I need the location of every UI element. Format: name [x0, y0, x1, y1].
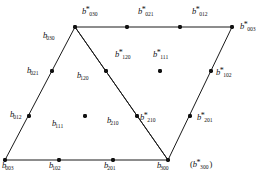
figure-canvas [0, 0, 271, 177]
label-b120-subscript: 120 [80, 75, 88, 81]
label-b300-star-close-paren: ) [209, 159, 212, 169]
label-b300: b300 [157, 161, 170, 170]
vertex-b003-star [230, 25, 234, 29]
label-b201-star-subscript: 201 [204, 117, 212, 123]
label-b111-star-subscript: 111 [160, 54, 168, 60]
label-b210: b210 [107, 116, 120, 125]
interior-b111-star [158, 69, 162, 73]
label-b201-star: b*201 [197, 113, 214, 122]
label-b021-star-subscript: 021 [145, 11, 153, 17]
label-b111: b111 [52, 119, 64, 128]
triangle-edges [5, 27, 232, 160]
label-b102: b102 [49, 161, 62, 170]
label-b102-star: b*102 [216, 68, 233, 77]
control-points [3, 25, 234, 162]
edge-diag-1 [104, 69, 108, 73]
label-b201-subscript: 201 [107, 165, 115, 171]
label-b003-star: b*003 [240, 22, 257, 31]
label-b003: b003 [2, 161, 15, 170]
label-b300-star-subscript: 300 [200, 164, 208, 170]
edge-top-1 [125, 25, 129, 29]
label-b300-subscript: 300 [160, 165, 168, 171]
interior-b111 [83, 114, 87, 118]
label-b030-star: b*030 [82, 7, 99, 16]
label-b210-subscript: 210 [110, 120, 118, 126]
label-b120-star: b*120 [115, 50, 132, 59]
label-b012-subscript: 012 [13, 114, 21, 120]
edge-left-2 [27, 114, 31, 118]
label-b003-subscript: 003 [5, 165, 13, 171]
edge-right-1 [209, 69, 213, 73]
label-b030-star-subscript: 030 [89, 11, 97, 17]
label-b120: b120 [77, 71, 90, 80]
label-b102-star-subscript: 102 [223, 72, 231, 78]
label-b210-star: b*210 [140, 113, 157, 122]
label-b012-star: b*012 [192, 7, 209, 16]
label-b012: b012 [10, 110, 23, 119]
edge-left-1 [50, 69, 54, 73]
edge-right-2 [188, 114, 192, 118]
edge-diag-2 [135, 114, 139, 118]
label-b030-subscript: 030 [46, 35, 54, 41]
label-b201: b201 [104, 161, 117, 170]
label-b021-star: b*021 [138, 7, 155, 16]
label-b030: b030 [43, 31, 56, 40]
bezier-control-net-figure: b*030b*021b*012b*003b030b021b012b003b102… [0, 0, 271, 177]
label-b111-star: b*111 [153, 50, 169, 59]
label-b012-star-subscript: 012 [199, 11, 207, 17]
label-b300-star: (b*300) [190, 160, 212, 169]
vertex-b030 [73, 25, 77, 29]
label-b120-star-subscript: 120 [122, 54, 130, 60]
label-b102-subscript: 102 [52, 165, 60, 171]
label-b021-subscript: 021 [30, 70, 38, 76]
label-b003-star-subscript: 003 [247, 26, 255, 32]
label-b111-subscript: 111 [55, 123, 63, 129]
triangle-left [5, 27, 168, 160]
edge-top-2 [178, 25, 182, 29]
label-b021: b021 [27, 66, 40, 75]
label-b210-star-subscript: 210 [147, 117, 155, 123]
triangle-right [75, 27, 232, 160]
